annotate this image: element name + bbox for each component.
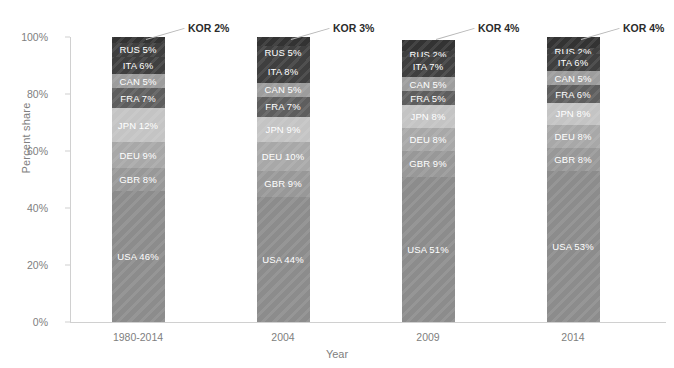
segment-label: GBR 9% <box>409 158 447 169</box>
segment-label: DEU 10% <box>262 151 304 162</box>
y-axis-tick-labels: 0%20%40%60%80%100% <box>4 0 48 368</box>
bar-segment-kor[interactable] <box>112 37 165 43</box>
bar-segment-deu[interactable]: DEU 9% <box>112 142 165 168</box>
bar-segment-kor[interactable] <box>402 40 455 51</box>
segment-label: ITA 6% <box>558 57 589 68</box>
y-tick-label: 20% <box>8 259 48 271</box>
bar-segment-rus[interactable]: RUS 5% <box>112 43 165 57</box>
plot-area: USA 46%GBR 8%DEU 9%JPN 12%FRA 7%CAN 5%IT… <box>70 37 666 322</box>
y-tick-label: 60% <box>8 145 48 157</box>
bar-segment-kor[interactable] <box>257 37 310 46</box>
x-tick-label: 2014 <box>513 331 633 343</box>
segment-label: CAN 5% <box>119 76 156 87</box>
bar-segment-can[interactable]: CAN 5% <box>547 71 600 85</box>
y-tick-label: 80% <box>8 88 48 100</box>
bar-segment-ita[interactable]: ITA 7% <box>402 57 455 77</box>
segment-label: USA 53% <box>552 241 593 252</box>
segment-label: RUS 5% <box>119 44 156 55</box>
segment-label: RUS 5% <box>264 47 301 58</box>
segment-label: DEU 8% <box>554 131 591 142</box>
segment-label: USA 46% <box>117 251 158 262</box>
segment-label: ITA 7% <box>413 61 444 72</box>
segment-label: USA 44% <box>262 254 303 265</box>
segment-label: RUS 2% <box>409 51 446 57</box>
bar-segment-fra[interactable]: FRA 7% <box>112 88 165 108</box>
segment-label: DEU 8% <box>409 134 446 145</box>
segment-label: CAN 5% <box>264 84 301 95</box>
bar-2004[interactable]: USA 44%GBR 9%DEU 10%JPN 9%FRA 7%CAN 5%IT… <box>257 37 310 322</box>
segment-label: GBR 8% <box>554 154 592 165</box>
segment-label: DEU 9% <box>119 150 156 161</box>
segment-label: JPN 12% <box>118 120 158 131</box>
bar-segment-rus[interactable]: RUS 5% <box>257 46 310 60</box>
segment-label: FRA 7% <box>120 93 155 104</box>
x-tick-label: 1980-2014 <box>78 331 198 343</box>
bar-segment-jpn[interactable]: JPN 8% <box>402 105 455 128</box>
bar-segment-gbr[interactable]: GBR 9% <box>257 171 310 197</box>
bar-segment-gbr[interactable]: GBR 9% <box>402 151 455 177</box>
segment-label: FRA 6% <box>555 89 590 100</box>
callout-label-kor: KOR 2% <box>188 22 229 34</box>
segment-label: FRA 7% <box>265 101 300 112</box>
bar-segment-usa[interactable]: USA 46% <box>112 191 165 322</box>
bar-1980-2014[interactable]: USA 46%GBR 8%DEU 9%JPN 12%FRA 7%CAN 5%IT… <box>112 37 165 322</box>
bar-segment-can[interactable]: CAN 5% <box>257 83 310 97</box>
bar-segment-kor[interactable] <box>547 37 600 48</box>
bar-segment-ita[interactable]: ITA 6% <box>112 57 165 74</box>
bar-segment-deu[interactable]: DEU 8% <box>402 128 455 151</box>
bar-segment-jpn[interactable]: JPN 9% <box>257 117 310 143</box>
bar-segment-ita[interactable]: ITA 8% <box>257 60 310 83</box>
bar-segment-rus[interactable]: RUS 2% <box>402 51 455 57</box>
bar-2009[interactable]: USA 51%GBR 9%DEU 8%JPN 8%FRA 5%CAN 5%ITA… <box>402 37 455 322</box>
x-axis-line <box>70 322 666 323</box>
x-tick-label: 2004 <box>223 331 343 343</box>
bar-segment-jpn[interactable]: JPN 8% <box>547 103 600 126</box>
segment-label: CAN 5% <box>554 73 591 84</box>
segment-label: JPN 8% <box>556 108 591 119</box>
bar-segment-ita[interactable]: ITA 6% <box>547 54 600 71</box>
bar-segment-fra[interactable]: FRA 6% <box>547 85 600 102</box>
bar-segment-fra[interactable]: FRA 5% <box>402 91 455 105</box>
segment-label: GBR 9% <box>264 178 302 189</box>
y-tick-label: 0% <box>8 316 48 328</box>
bar-segment-fra[interactable]: FRA 7% <box>257 97 310 117</box>
y-tick-label: 40% <box>8 202 48 214</box>
segment-label: CAN 5% <box>409 79 446 90</box>
bar-segment-gbr[interactable]: GBR 8% <box>112 168 165 191</box>
bar-segment-can[interactable]: CAN 5% <box>402 77 455 91</box>
bar-2014[interactable]: USA 53%GBR 8%DEU 8%JPN 8%FRA 6%CAN 5%ITA… <box>547 37 600 322</box>
segment-label: FRA 5% <box>410 93 445 104</box>
segment-label: RUS 2% <box>554 48 591 54</box>
bar-segment-rus[interactable]: RUS 2% <box>547 48 600 54</box>
callout-label-kor: KOR 4% <box>623 22 664 34</box>
bar-segment-deu[interactable]: DEU 8% <box>547 125 600 148</box>
segment-label: USA 51% <box>407 244 448 255</box>
callout-label-kor: KOR 3% <box>333 22 374 34</box>
segment-label: ITA 6% <box>123 60 154 71</box>
segment-label: JPN 9% <box>266 124 301 135</box>
segment-label: JPN 8% <box>411 111 446 122</box>
bar-segment-usa[interactable]: USA 44% <box>257 197 310 322</box>
bar-segment-gbr[interactable]: GBR 8% <box>547 148 600 171</box>
x-axis-title: Year <box>0 348 674 360</box>
bar-segment-can[interactable]: CAN 5% <box>112 74 165 88</box>
x-tick-label: 2009 <box>368 331 488 343</box>
bar-segment-jpn[interactable]: JPN 12% <box>112 108 165 142</box>
y-tick-label: 100% <box>8 31 48 43</box>
bar-segment-usa[interactable]: USA 53% <box>547 171 600 322</box>
bar-segment-usa[interactable]: USA 51% <box>402 177 455 322</box>
callout-label-kor: KOR 4% <box>478 22 519 34</box>
segment-label: ITA 8% <box>268 66 299 77</box>
stacked-bar-chart: Percent share 0%20%40%60%80%100% USA 46%… <box>0 0 674 368</box>
bar-segment-deu[interactable]: DEU 10% <box>257 142 310 171</box>
segment-label: GBR 8% <box>119 174 157 185</box>
